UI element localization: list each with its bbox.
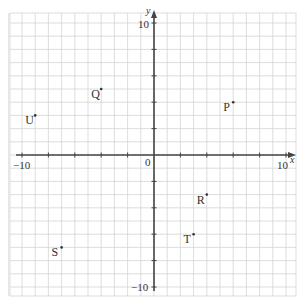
point-marker-icon <box>232 101 235 104</box>
point-marker-icon <box>206 193 209 196</box>
point-label: U <box>25 113 34 127</box>
point-label: T <box>184 232 192 246</box>
point-marker-icon <box>60 246 63 249</box>
origin-label: 0 <box>145 156 151 168</box>
plotted-points: PQRSTU <box>25 87 234 259</box>
point-marker-icon <box>192 233 195 236</box>
x-axis-label: x <box>289 154 295 165</box>
x-max-label: 10 <box>277 159 289 171</box>
point-marker-icon <box>34 114 37 117</box>
point-label: Q <box>91 87 100 101</box>
y-axis-label: y <box>145 5 151 16</box>
y-axis-arrow-icon <box>151 10 157 18</box>
y-min-label: −10 <box>131 281 149 293</box>
x-min-label: −10 <box>13 159 31 171</box>
point-label: R <box>197 193 205 207</box>
y-max-label: 10 <box>138 18 150 30</box>
point-marker-icon <box>100 88 103 91</box>
point-label: P <box>223 100 230 114</box>
point-label: S <box>52 245 59 259</box>
coordinate-grid: x y 0 −10 10 10 −10 PQRSTU <box>0 0 301 307</box>
